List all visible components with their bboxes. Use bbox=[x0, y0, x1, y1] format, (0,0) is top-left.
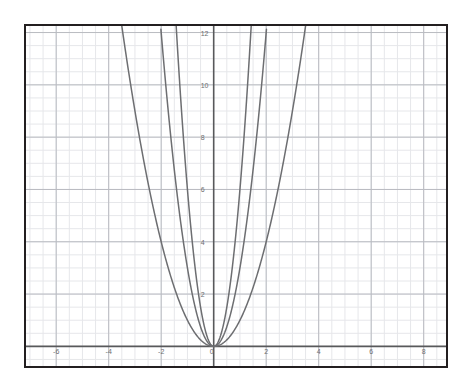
y-tick-label-10: 10 bbox=[201, 81, 209, 88]
x-tick-label-6: 6 bbox=[369, 348, 373, 355]
x-tick-label-neg4: -4 bbox=[106, 348, 112, 355]
minor-gridlines bbox=[26, 26, 446, 366]
x-tick-label-neg6: -6 bbox=[53, 348, 59, 355]
y-tick-label-2: 2 bbox=[201, 291, 205, 298]
x-tick-label-neg2: -2 bbox=[158, 348, 164, 355]
x-tick-label-4: 4 bbox=[317, 348, 321, 355]
y-tick-label-8: 8 bbox=[201, 134, 205, 141]
chart-figure: -6-4-20246824681012 bbox=[0, 0, 472, 385]
parabola-graph-svg bbox=[26, 26, 446, 366]
y-tick-label-4: 4 bbox=[201, 238, 205, 245]
major-gridlines bbox=[26, 26, 446, 366]
x-tick-label-8: 8 bbox=[422, 348, 426, 355]
plot-area: -6-4-20246824681012 bbox=[26, 26, 446, 366]
axes bbox=[26, 26, 446, 366]
x-tick-label-0: 0 bbox=[210, 348, 214, 355]
y-tick-label-6: 6 bbox=[201, 186, 205, 193]
y-tick-label-12: 12 bbox=[201, 29, 209, 36]
plot-frame: -6-4-20246824681012 bbox=[24, 24, 448, 368]
x-tick-label-2: 2 bbox=[264, 348, 268, 355]
